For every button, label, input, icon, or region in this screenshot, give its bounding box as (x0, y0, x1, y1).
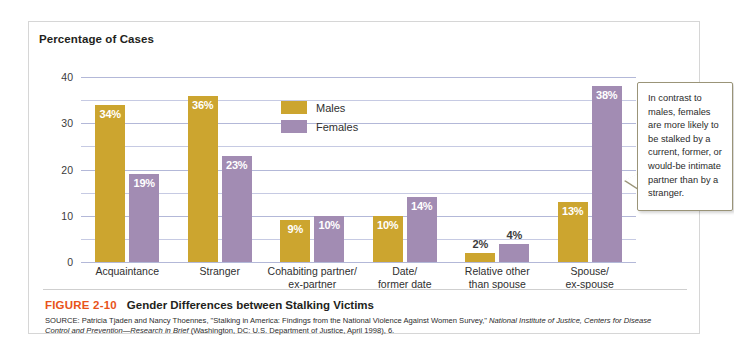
bar-value-label: 34% (95, 108, 125, 120)
bar-males: 2% (465, 253, 495, 262)
bar-group: 2%4% (465, 77, 529, 262)
chart-axis-title: Percentage of Cases (39, 33, 154, 45)
bar-value-label: 23% (222, 159, 252, 171)
bar-value-label: 14% (407, 200, 437, 212)
bar-value-label: 13% (558, 205, 588, 217)
callout-note: In contrast to males, females are more l… (637, 82, 733, 211)
y-tick-30: 30 (33, 117, 73, 129)
bar-females: 38% (592, 86, 622, 262)
bar-value-label: 9% (280, 223, 310, 235)
bar-females: 19% (129, 174, 159, 262)
chart-legend: Males Females (281, 98, 411, 136)
bar-males: 9% (280, 220, 310, 262)
source-note: SOURCE: Patricia Tjaden and Nancy Thoenn… (45, 316, 675, 337)
figure-title: Gender Differences between Stalking Vict… (127, 299, 374, 311)
bar-males: 36% (188, 96, 218, 263)
caption-heading: FIGURE 2-10Gender Differences between St… (45, 299, 675, 311)
bar-group: 36%23% (188, 77, 252, 262)
bar-females: 23% (222, 156, 252, 262)
category-label: Spouse/ex-spouse (534, 265, 646, 290)
bar-value-label: 36% (188, 99, 218, 111)
source-line-2-rest: (Washington, DC: U.S. Department of (189, 326, 318, 335)
y-tick-10: 10 (33, 210, 73, 222)
bar-females: 10% (314, 216, 344, 262)
bar-females: 4% (499, 244, 529, 263)
legend-swatch-females-icon (281, 120, 307, 133)
bar-group: 13%38% (558, 77, 622, 262)
chart-area: Percentage of Cases 010203040 34%19%36%2… (29, 22, 701, 277)
legend-item-males: Males (281, 98, 411, 117)
bar-value-label: 19% (129, 177, 159, 189)
legend-swatch-males-icon (281, 101, 307, 114)
legend-label-males: Males (316, 102, 345, 114)
bar-value-label: 2% (465, 238, 495, 250)
bar-value-label: 4% (499, 229, 529, 241)
caption-divider (43, 289, 687, 290)
source-line-3: Justice, April 1998), 6. (320, 326, 395, 335)
y-tick-20: 20 (33, 164, 73, 176)
y-tick-0: 0 (33, 256, 73, 268)
bar-males: 13% (558, 202, 588, 262)
x-axis-category-labels: AcquaintanceStrangerCohabiting partner/e… (81, 265, 636, 299)
y-axis-tick-labels: 010203040 (33, 77, 77, 267)
y-tick-40: 40 (33, 71, 73, 83)
figure-number: FIGURE 2-10 (45, 299, 117, 311)
legend-item-females: Females (281, 117, 411, 136)
gridline-major (81, 262, 636, 263)
bar-females: 14% (407, 197, 437, 262)
bar-value-label: 10% (373, 219, 403, 231)
bar-males: 10% (373, 216, 403, 262)
source-line-1: SOURCE: Patricia Tjaden and Nancy Thoenn… (45, 316, 487, 325)
figure-caption: FIGURE 2-10Gender Differences between St… (45, 299, 675, 337)
bar-value-label: 10% (314, 219, 344, 231)
legend-label-females: Females (316, 121, 358, 133)
bar-males: 34% (95, 105, 125, 262)
bar-group: 34%19% (95, 77, 159, 262)
bar-value-label: 38% (592, 89, 622, 101)
figure-container: Percentage of Cases 010203040 34%19%36%2… (28, 21, 700, 334)
